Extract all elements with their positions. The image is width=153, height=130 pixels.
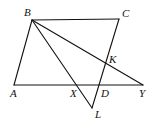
point-label-a: A	[9, 87, 17, 99]
point-label-k: K	[108, 53, 117, 65]
segment-bl	[32, 20, 92, 108]
geometry-figure: ABCDXYKL	[0, 0, 153, 130]
diagram-canvas: ABCDXYKL	[0, 0, 153, 130]
point-label-c: C	[122, 7, 130, 19]
point-label-b: B	[24, 6, 31, 18]
point-label-l: L	[94, 108, 101, 120]
segments-group	[14, 19, 143, 108]
segment-by	[32, 20, 143, 85]
labels-group: ABCDXYKL	[9, 6, 147, 120]
segment-bc	[32, 19, 119, 20]
segment-ab	[14, 20, 32, 85]
point-label-y: Y	[139, 87, 147, 99]
point-label-x: X	[69, 87, 78, 99]
point-label-d: D	[100, 87, 109, 99]
